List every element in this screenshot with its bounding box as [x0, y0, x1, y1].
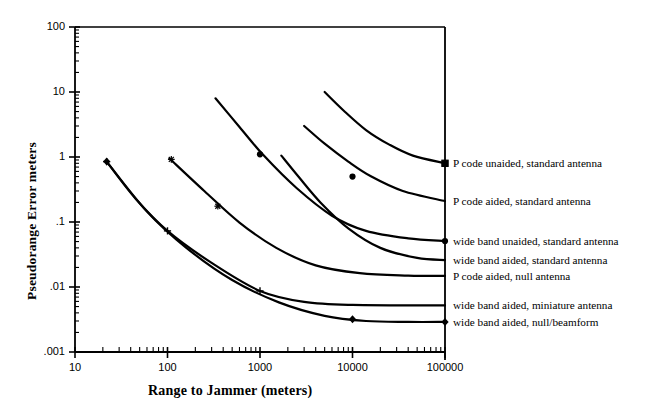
- x-tick-100: 100: [138, 362, 198, 373]
- x-tick-10000: 10000: [323, 362, 383, 373]
- y-tick-.001: .001: [21, 346, 65, 357]
- y-tick-10: 10: [21, 86, 65, 97]
- x-tick-10: 10: [45, 362, 105, 373]
- legend-item-5: wide band aided, miniature antenna: [453, 299, 612, 311]
- legend-item-2: wide band unaided, standard antenna: [453, 235, 619, 247]
- y-axis-title: Pseudorange Error meters: [24, 142, 40, 300]
- series-line-4: [168, 156, 445, 276]
- legend-item-0: P code unaided, standard antenna: [453, 157, 602, 169]
- series-line-5: [103, 158, 445, 305]
- legend-item-6: wide band aided, null/beamform: [453, 316, 598, 328]
- legend-item-4: P code aided, null antenna: [453, 270, 570, 282]
- legend-item-3: wide band aided, standard antenna: [453, 254, 607, 266]
- chart-figure: 100101.1.01.001 10100100010000100000 P c…: [0, 0, 668, 417]
- series-line-1: [304, 126, 445, 201]
- legend-item-1: P code aided, standard antenna: [453, 195, 591, 207]
- y-tick-100: 100: [21, 21, 65, 32]
- x-tick-100000: 100000: [415, 362, 475, 373]
- x-axis-title: Range to Jammer (meters): [148, 383, 312, 399]
- x-tick-1000: 1000: [230, 362, 290, 373]
- series-line-0: [325, 92, 449, 166]
- series-line-2: [215, 98, 448, 244]
- series-line-6: [103, 158, 449, 326]
- log-log-line-chart: [0, 0, 668, 417]
